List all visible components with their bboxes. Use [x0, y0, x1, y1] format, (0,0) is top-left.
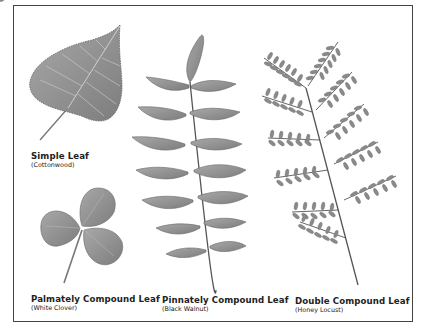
label-title: Palmately Compound Leaf [31, 295, 160, 304]
palmate-leaf-illustration [41, 188, 123, 283]
leaflets-pattern [0, 0, 4, 2]
label-title: Double Compound Leaf [295, 297, 410, 306]
label-subtitle: (Black Walnut) [162, 306, 289, 313]
label-subtitle: (White Clover) [31, 305, 160, 312]
label-palmate-leaf: Palmately Compound Leaf (White Clover) [31, 295, 160, 312]
simple-leaf-illustration [30, 25, 122, 140]
pinnate-leaf-illustration [132, 35, 248, 293]
label-double-compound-leaf: Double Compound Leaf (Honey Locust) [295, 297, 410, 314]
label-subtitle: (Cottonwood) [31, 162, 89, 169]
label-title: Simple Leaf [31, 152, 89, 161]
label-title: Pinnately Compound Leaf [162, 296, 289, 305]
label-subtitle: (Honey Locust) [295, 307, 410, 314]
label-simple-leaf: Simple Leaf (Cottonwood) [31, 152, 89, 169]
label-pinnate-leaf: Pinnately Compound Leaf (Black Walnut) [162, 296, 289, 313]
